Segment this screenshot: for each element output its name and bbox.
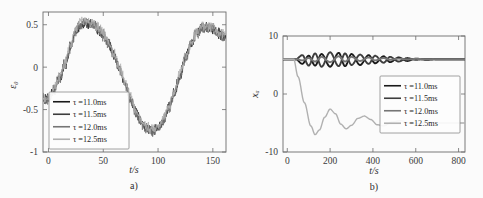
panel-a-legend: τ =11.0msτ =11.5msτ =12.0msτ =12.5ms bbox=[49, 92, 129, 149]
chart-panel-b: 0200400600800 100-10 τ =11.0msτ =11.5msτ… bbox=[241, 0, 482, 198]
legend-label-2: τ =12.0ms bbox=[404, 107, 438, 116]
panel-b-x-tick-label: 600 bbox=[409, 156, 424, 166]
panel-b-x-tick-label: 800 bbox=[451, 156, 466, 166]
panel-b-x-axis-label: t/s bbox=[369, 165, 379, 176]
panel-a-x-axis-label: t/s bbox=[129, 164, 139, 175]
panel-b-x-tick-label: 0 bbox=[285, 156, 290, 166]
panel-a-y-tick-label: 0 bbox=[33, 63, 38, 73]
panel-a-y-tick-labels: 0.50-0.5-1 bbox=[23, 20, 38, 157]
legend-label-3: τ =12.5ms bbox=[404, 119, 438, 128]
panel-a-y-tick-label: -0.5 bbox=[23, 105, 38, 115]
legend-label-3: τ =12.5ms bbox=[73, 135, 107, 144]
panel-a-svg: 050100150 0.50-0.5-1 τ =11.0msτ =11.5msτ… bbox=[0, 0, 241, 198]
panel-a-y-tick-label: -1 bbox=[30, 147, 38, 157]
legend-label-0: τ =11.0ms bbox=[404, 82, 438, 91]
panel-a-x-tick-label: 50 bbox=[99, 156, 109, 166]
panel-b-y-axis-label: xₐ bbox=[249, 90, 260, 98]
panel-b-y-tick-label: 10 bbox=[269, 31, 279, 41]
panel-b-y-tick-labels: 100-10 bbox=[265, 31, 278, 157]
panel-b-svg: 0200400600800 100-10 τ =11.0msτ =11.5msτ… bbox=[241, 0, 483, 198]
figure-container: 050100150 0.50-0.5-1 τ =11.0msτ =11.5msτ… bbox=[0, 0, 483, 198]
panel-b-x-tick-label: 200 bbox=[323, 156, 338, 166]
panel-a-x-tick-label: 0 bbox=[46, 156, 51, 166]
panel-a-y-tick-label: 0.5 bbox=[26, 20, 38, 30]
legend-label-2: τ =12.0ms bbox=[73, 123, 107, 132]
legend-label-1: τ =11.5ms bbox=[404, 94, 438, 103]
panel-b-y-tick-label: 0 bbox=[273, 89, 278, 99]
legend-label-0: τ =11.0ms bbox=[73, 98, 107, 107]
legend-label-1: τ =11.5ms bbox=[73, 110, 107, 119]
panel-a-y-axis-label: ε₀ bbox=[7, 81, 18, 89]
chart-panel-a: 050100150 0.50-0.5-1 τ =11.0msτ =11.5msτ… bbox=[0, 0, 241, 198]
panel-b-y-tick-label: -10 bbox=[265, 147, 278, 157]
panel-a-caption: a) bbox=[130, 180, 138, 192]
panel-a-x-tick-label: 100 bbox=[151, 156, 166, 166]
panel-b-caption: b) bbox=[370, 181, 378, 193]
panel-a-x-tick-label: 150 bbox=[206, 156, 221, 166]
panel-b-legend: τ =11.0msτ =11.5msτ =12.0msτ =12.5ms bbox=[380, 76, 460, 133]
